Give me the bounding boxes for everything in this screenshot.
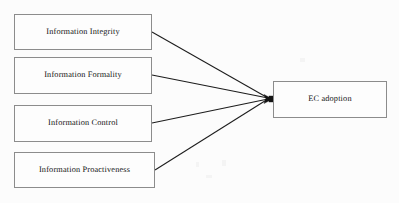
scan-artifact: [222, 160, 226, 166]
edge-formality-to-adoption: [152, 75, 268, 98]
edge-proactiveness-to-adoption: [155, 99, 268, 170]
scan-artifact: [300, 58, 305, 62]
construct-label: Information Integrity: [46, 28, 119, 36]
outcome-label: EC adoption: [308, 95, 351, 103]
scan-artifact: [206, 175, 212, 178]
construct-label: Information Proactiveness: [39, 166, 130, 174]
construct-box-information-integrity[interactable]: Information Integrity: [14, 14, 152, 50]
edge-control-to-adoption: [152, 99, 268, 123]
construct-box-ec-adoption[interactable]: EC adoption: [273, 81, 387, 118]
edge-integrity-to-adoption: [152, 32, 268, 98]
construct-box-information-control[interactable]: Information Control: [14, 105, 152, 142]
arrow-head-icon: [264, 95, 273, 104]
research-model-diagram: Information Integrity Information Formal…: [0, 0, 399, 203]
construct-label: Information Control: [48, 119, 118, 127]
construct-label: Information Formality: [44, 71, 122, 79]
construct-box-information-proactiveness[interactable]: Information Proactiveness: [14, 152, 155, 188]
construct-box-information-formality[interactable]: Information Formality: [14, 57, 152, 94]
scan-artifact: [196, 162, 199, 167]
